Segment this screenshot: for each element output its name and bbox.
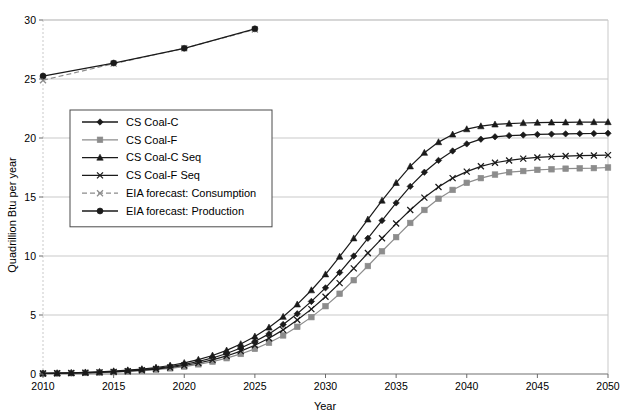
data-point-circle — [40, 73, 46, 79]
data-point-square — [450, 187, 456, 193]
data-point-square — [97, 137, 103, 143]
x-tick-label: 2035 — [384, 380, 408, 392]
data-point-square — [563, 166, 569, 172]
chart-container: 201020152020202520302035204020452050 051… — [0, 0, 631, 419]
x-tick-label: 2050 — [596, 380, 620, 392]
data-point-square — [520, 168, 526, 174]
data-point-square — [379, 248, 385, 254]
y-tick-label: 10 — [24, 250, 36, 262]
y-tick-label: 20 — [24, 132, 36, 144]
x-tick-label: 2040 — [455, 380, 479, 392]
y-axis-title: Quadrillion Btu per year — [6, 157, 18, 273]
data-point-square — [436, 196, 442, 202]
data-point-square — [309, 314, 315, 320]
x-tick-label: 2030 — [314, 380, 338, 392]
data-point-square — [535, 167, 541, 173]
data-point-square — [492, 172, 498, 178]
data-point-square — [591, 165, 597, 171]
data-point-square — [478, 175, 484, 181]
x-tick-label: 2025 — [243, 380, 267, 392]
x-tick-label: 2020 — [173, 380, 197, 392]
legend-item-label: EIA forecast: Consumption — [126, 187, 256, 199]
data-point-circle — [111, 60, 117, 66]
data-point-square — [549, 166, 555, 172]
data-point-square — [280, 333, 286, 339]
legend-item-label: CS Coal-C Seq — [126, 151, 201, 163]
data-point-square — [337, 291, 343, 297]
data-point-square — [393, 234, 399, 240]
legend-item-label: CS Coal-F — [126, 134, 178, 146]
legend-item-label: CS Coal-F Seq — [126, 169, 200, 181]
y-tick-label: 0 — [30, 368, 36, 380]
x-tick-label: 2015 — [102, 380, 126, 392]
data-point-circle — [252, 26, 258, 32]
x-tick-label: 2045 — [526, 380, 550, 392]
data-point-square — [323, 303, 329, 309]
x-axis-title: Year — [314, 400, 337, 412]
legend-item-label: CS Coal-C — [126, 116, 179, 128]
data-point-square — [422, 207, 428, 213]
x-tick-label: 2010 — [31, 380, 55, 392]
y-tick-label: 15 — [24, 191, 36, 203]
data-point-square — [365, 263, 371, 269]
legend-item-label: EIA forecast: Production — [126, 205, 244, 217]
line-chart: 201020152020202520302035204020452050 051… — [0, 0, 631, 419]
data-point-circle — [97, 208, 103, 214]
y-tick-label: 30 — [24, 14, 36, 26]
data-point-square — [464, 180, 470, 186]
data-point-square — [506, 169, 512, 175]
data-point-square — [351, 277, 357, 283]
chart-legend: CS Coal-CCS Coal-FCS Coal-C SeqCS Coal-F… — [70, 110, 272, 227]
data-point-circle — [181, 45, 187, 51]
data-point-square — [577, 166, 583, 172]
y-tick-label: 5 — [30, 309, 36, 321]
y-tick-label: 25 — [24, 73, 36, 85]
data-point-square — [294, 324, 300, 330]
data-point-square — [605, 165, 611, 171]
data-point-square — [407, 220, 413, 226]
